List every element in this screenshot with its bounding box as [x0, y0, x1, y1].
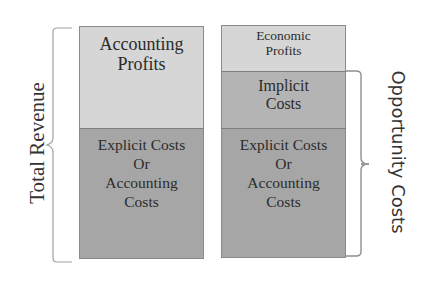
left-column-divider [79, 128, 204, 129]
right-column-divider-bottom [221, 128, 346, 129]
total-revenue-brace [47, 28, 72, 262]
right-column-outline [221, 25, 346, 258]
opportunity-costs-label: Opportunity Costs [385, 57, 409, 247]
total-revenue-label: Total Revenue [25, 53, 49, 233]
braces [0, 0, 425, 281]
left-column-outline [79, 26, 204, 259]
right-column-divider-top [221, 71, 346, 72]
